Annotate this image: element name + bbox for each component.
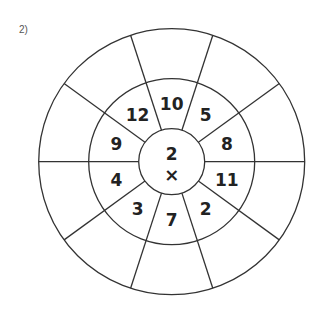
inner-ring-number: 7 <box>166 210 178 230</box>
inner-ring-number: 4 <box>111 170 123 190</box>
inner-ring-number: 11 <box>215 170 239 190</box>
inner-ring-number: 2 <box>200 199 212 219</box>
center-value: 2 <box>166 144 178 164</box>
operator-symbol: × <box>164 164 179 185</box>
inner-ring-number: 8 <box>221 134 233 154</box>
inner-ring-number: 9 <box>111 134 123 154</box>
inner-ring-number: 12 <box>126 105 150 125</box>
inner-ring-number: 3 <box>132 199 144 219</box>
inner-ring-number: 5 <box>200 105 212 125</box>
multiplication-wheel: 1058112734912 2 × <box>0 0 318 309</box>
inner-ring-number: 10 <box>160 94 184 114</box>
